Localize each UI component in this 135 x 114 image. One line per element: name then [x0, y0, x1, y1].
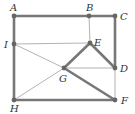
edge-h-g — [14, 68, 64, 100]
node-e — [88, 41, 93, 46]
node-label-i: I — [3, 39, 9, 50]
node-i — [12, 42, 17, 47]
node-a — [12, 14, 17, 19]
edge-i-g — [14, 44, 64, 68]
node-label-a: A — [9, 2, 17, 13]
node-f — [113, 98, 118, 103]
edge-e-g — [64, 43, 90, 68]
edge-i-e — [14, 43, 90, 44]
node-label-e: E — [93, 37, 102, 48]
node-label-h: H — [9, 103, 19, 114]
node-label-b: B — [85, 2, 93, 13]
node-c — [113, 14, 118, 19]
edge-g-f — [64, 68, 115, 100]
node-h — [12, 98, 17, 103]
graph-diagram: ABCIEGDHF — [0, 0, 135, 114]
node-label-c: C — [120, 11, 128, 22]
nodes-group — [12, 14, 118, 103]
node-d — [113, 66, 118, 71]
edge-b-e — [89, 16, 90, 43]
node-g — [62, 66, 67, 71]
node-label-f: F — [120, 95, 129, 106]
node-b — [87, 14, 92, 19]
edges-group — [14, 16, 115, 100]
node-label-g: G — [59, 73, 67, 84]
node-label-d: D — [119, 63, 128, 74]
